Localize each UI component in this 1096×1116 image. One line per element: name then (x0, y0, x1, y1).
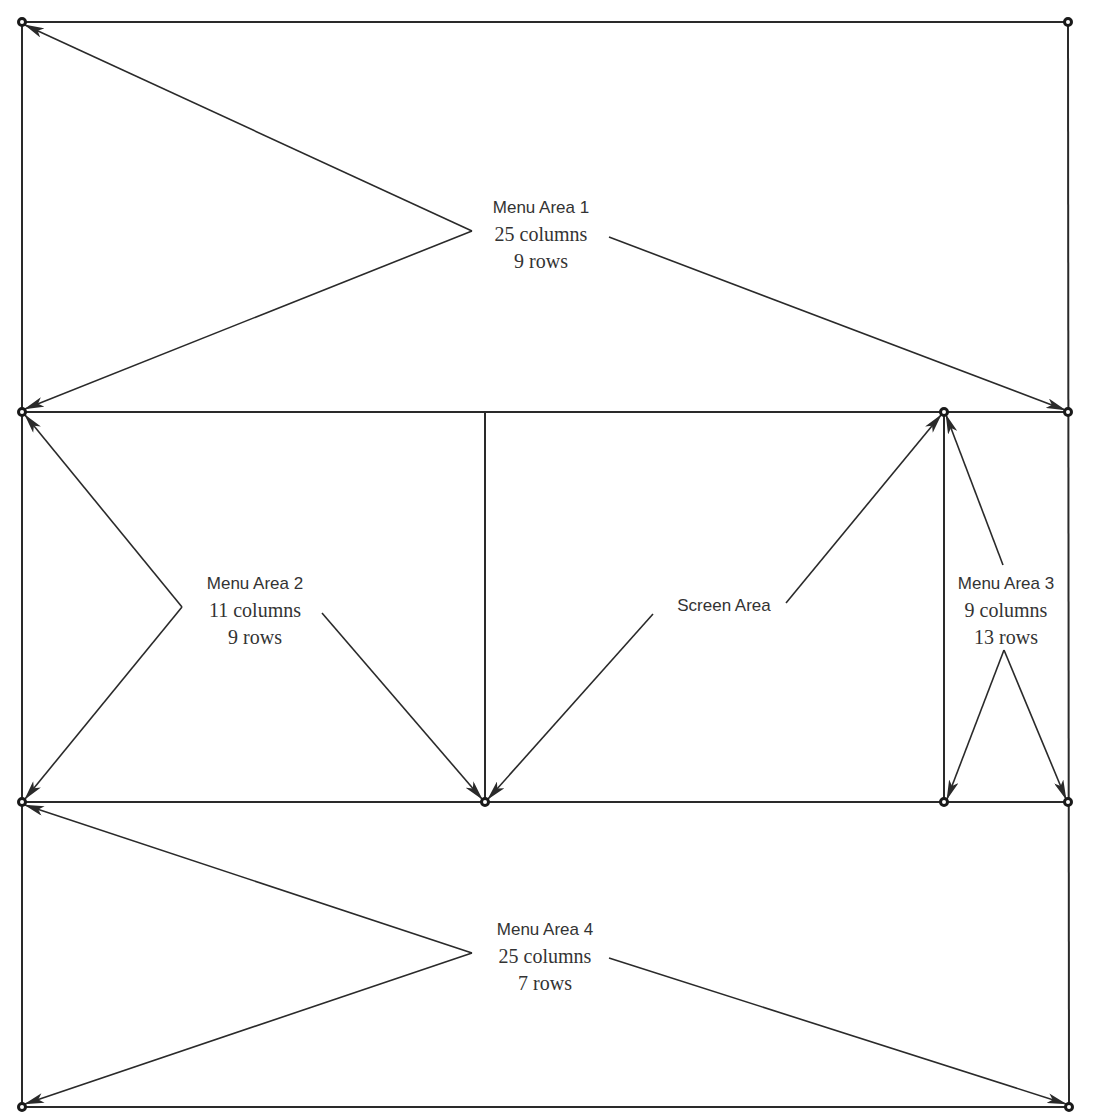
arrow-menu-area-4-bottom-right (609, 958, 1066, 1104)
node-mid-top-left (19, 409, 26, 416)
menu-area-2-columns: 11 columns (207, 597, 303, 624)
menu-area-4-label: Menu Area 4 25 columns 7 rows (497, 917, 593, 997)
arrow-menu-area-1-top-left (25, 25, 472, 231)
menu-area-1-title: Menu Area 1 (493, 195, 589, 221)
menu-area-4-columns: 25 columns (497, 943, 593, 970)
menu-area-2-title: Menu Area 2 (207, 571, 303, 597)
arrow-menu-area-4-bottom-left (25, 953, 472, 1104)
node-mid-bottom-right-inner (941, 799, 948, 806)
screen-area-label: Screen Area (677, 593, 771, 619)
node-mid-bottom-left (19, 799, 26, 806)
arrow-menu-area-2-bottom-left (25, 607, 182, 799)
menu-area-4-rows: 7 rows (497, 970, 593, 997)
node-mid-top-right (1065, 409, 1072, 416)
arrow-menu-area-2-top-left (25, 415, 182, 607)
outer-right-border (1068, 22, 1069, 1107)
screen-area-title: Screen Area (677, 593, 771, 619)
arrow-menu-area-4-top-left (25, 805, 472, 953)
arrow-menu-area-3-top-left (946, 415, 1003, 565)
menu-area-2-rows: 9 rows (207, 624, 303, 651)
arrow-menu-area-3-bottom-right (1004, 650, 1066, 799)
menu-area-3-rows: 13 rows (958, 624, 1054, 651)
node-top-left (19, 19, 26, 26)
arrow-screen-area-top-right (786, 415, 941, 603)
menu-area-2-label: Menu Area 2 11 columns 9 rows (207, 571, 303, 651)
node-mid-top-right-inner (941, 409, 948, 416)
arrow-screen-area-bottom-left (488, 614, 653, 799)
arrow-menu-area-2-bottom-right (322, 613, 482, 799)
menu-area-4-title: Menu Area 4 (497, 917, 593, 943)
arrow-menu-area-1-bottom-right (609, 237, 1065, 410)
menu-area-1-rows: 9 rows (493, 248, 589, 275)
node-bottom-right (1066, 1104, 1073, 1111)
menu-area-1-columns: 25 columns (493, 221, 589, 248)
menu-area-3-title: Menu Area 3 (958, 571, 1054, 597)
menu-area-1-label: Menu Area 1 25 columns 9 rows (493, 195, 589, 275)
node-mid-bottom-right (1065, 799, 1072, 806)
node-top-right (1065, 19, 1072, 26)
arrow-menu-area-1-bottom-left (25, 231, 472, 409)
node-bottom-left (19, 1104, 26, 1111)
menu-area-3-label: Menu Area 3 9 columns 13 rows (958, 571, 1054, 651)
arrow-menu-area-3-bottom-left (947, 650, 1004, 799)
node-mid-bottom-center (482, 799, 489, 806)
menu-area-3-columns: 9 columns (958, 597, 1054, 624)
